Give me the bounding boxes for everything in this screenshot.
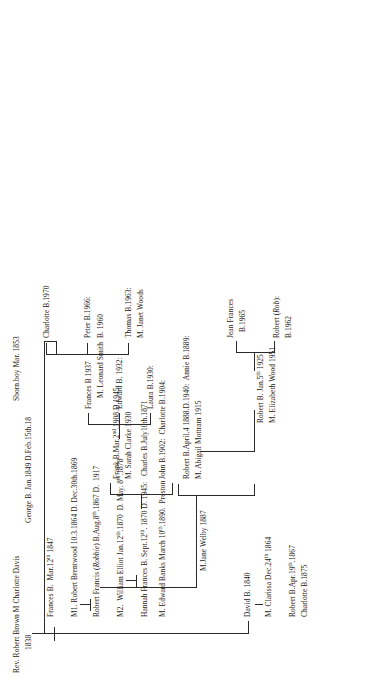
node-marriage1-brentwood: M1. Robert Brentwood 10.3.1864 D. Dec.30… <box>70 458 79 617</box>
node-marriage2-elliot: M2. William Elliot Jan.12th.1870 D. May.… <box>116 459 125 617</box>
robbie-pre: Robert Francis ( <box>92 567 101 617</box>
tick-thomas-1963 <box>128 343 129 355</box>
hannah-marriage-sup: th <box>157 526 163 530</box>
robert-1925-descender <box>200 451 254 452</box>
node-leonard-smith: M. Leonard Smith B. 1960 <box>96 314 105 398</box>
robbie-tail: .1867 D. 1917 <box>92 466 101 512</box>
m1-descender <box>80 604 90 605</box>
tick-laura-1930 <box>150 413 151 425</box>
node-abigail-mottram: M. Abigail Mottram 1915 <box>194 400 203 479</box>
david-marriage-tick <box>255 604 263 605</box>
rob-nickname: Rob <box>272 301 281 313</box>
hannah-sup: th <box>139 530 145 534</box>
tick-john-bottom <box>172 483 173 495</box>
tick-jean <box>236 341 237 353</box>
john-parent-connector <box>141 495 142 509</box>
tick-peter-1966 <box>87 343 88 355</box>
rob-jean-bus <box>236 352 274 353</box>
node-robert-b-1867: Robert B.Apr.19th.1867 <box>288 545 297 617</box>
node-sarah-clarke: M. Sarah Clarke 1930 <box>124 412 133 479</box>
tick-robert-annie-bottom <box>254 484 255 496</box>
hannah-text: Hannah Frances B. Sept.12 <box>140 534 149 617</box>
david-spouse-sup: th <box>263 554 269 558</box>
tick-edward-1932 <box>119 413 120 425</box>
root-descender <box>32 633 44 634</box>
frank-pre: Frank B.Mar.2 <box>112 434 121 479</box>
node-jean-birth: B.1965 <box>238 310 247 332</box>
hannah-marriage-text: M. Edward Banks March 10 <box>158 531 167 617</box>
node-rob-birth: B.1962 <box>284 316 293 338</box>
root-marriage-year: 1838 <box>24 635 33 650</box>
tick-frances <box>54 627 55 641</box>
hannah-marriage-tail: .1890. Preston <box>158 481 167 527</box>
generation1-sibling-bus <box>44 342 45 634</box>
family-tree-chart: Rev. Robert Brown M Charlotte Davis 1838… <box>0 0 376 691</box>
tick-david <box>248 621 249 634</box>
robbie-marriage-descender <box>100 587 196 588</box>
tick-rob <box>274 341 275 353</box>
node-frances-1937: Frances B 1937 <box>84 361 93 409</box>
node-peter-1966: Peter B.1966: <box>83 296 92 338</box>
jane-children-bus <box>178 495 254 496</box>
rob-pre: Robert ( <box>272 313 281 338</box>
drop-to-david <box>44 633 248 634</box>
tick-robert-annie-top <box>178 484 179 496</box>
node-jane-welby: M.Jane Welby 1887 <box>199 510 208 571</box>
drop-to-frances <box>44 633 54 634</box>
robbie-post: ) B.Aug.8 <box>92 516 101 546</box>
tick-stillborn <box>56 341 57 355</box>
m2-tail: .1870 D. May. 8 <box>116 480 125 531</box>
drop-to-stillborn <box>44 341 56 342</box>
frank-children-parent-connector <box>119 425 120 439</box>
rob-jean-parent-connector <box>254 353 255 371</box>
node-charlotte-1970: Charlotte B,1970 <box>42 285 51 338</box>
rob-post: ): <box>272 296 281 301</box>
node-janet-woods: M. Janet Woods <box>136 289 145 338</box>
node-stillborn: Sborn.boy Mar. 1853 <box>12 336 21 401</box>
frances-text: Frances B. Mar.12 <box>46 559 55 617</box>
robert-1925-pre: Robert B. Jan.5 <box>256 376 265 423</box>
family-tree-page: Rev. Robert Brown M Charlotte Davis 1838… <box>0 0 376 691</box>
robert-1925-sup: th <box>255 371 261 375</box>
node-edward-1932: Edward B. 1932: <box>115 357 124 409</box>
m1-child-bus <box>90 599 91 611</box>
node-charlotte-b-1875: Charlotte B.1875 <box>300 564 309 617</box>
node-robert-1925: Robert B. Jan.5th 1925 <box>256 354 265 423</box>
frances-sup: th <box>45 555 51 559</box>
node-david: David B. 1840 <box>243 572 252 617</box>
frank-sup: nd <box>111 429 117 434</box>
node-elizabeth-wood: M. Elizabeth Wood 1951 <box>268 347 277 423</box>
hannah-tail: . 1870 D. 1945: Charles B.July10th.1871 <box>140 400 149 529</box>
m2-sup: th <box>115 531 121 535</box>
m2-pre: M2. William Elliot Jan.12 <box>116 536 125 617</box>
david-spouse-text: M. Clarissa Dec.24 <box>264 558 273 617</box>
robert-1925-parent-connector <box>254 410 255 452</box>
node-frances: Frances B. Mar.12th 1847 <box>46 537 55 617</box>
node-thomas-1963: Thomas B.1963: <box>124 287 133 338</box>
robbie-nickname: Robbie <box>92 546 101 568</box>
tick-john-top <box>110 483 111 495</box>
root-couple-label: Rev. Robert Brown M Charlotte Davis <box>12 555 21 673</box>
tick-charlotte-1970 <box>46 343 47 355</box>
tick-frances-1937 <box>88 413 89 425</box>
node-robert-rob-1962: Robert (Rob): <box>272 296 281 338</box>
robert-1925-tail: 1925 <box>256 354 265 371</box>
robert-b-tail: .1867 <box>288 545 297 562</box>
node-hannah-marriage-banks: M. Edward Banks March 10th.1890. Preston <box>158 481 167 617</box>
node-david-spouse: M. Clarissa Dec.24th 1864 <box>264 537 273 617</box>
node-jean-frances: Jean Frances <box>226 299 235 338</box>
m2-descender <box>126 580 136 581</box>
robert-b-text: Robert B.Apr.19 <box>288 566 297 617</box>
node-laura-1930: Laura B.1930: <box>146 365 155 409</box>
jane-children-connector <box>196 496 197 518</box>
node-robert-annie: Robert B.April.4 1888.D.1940: Annie B.18… <box>182 335 191 479</box>
frances-tail: 1847 <box>46 537 55 554</box>
m2-child-bus <box>136 575 137 587</box>
node-george: George B. Jan.1849 D.Feb.15th.18 <box>24 417 33 523</box>
robbie-to-jane-connector <box>196 518 197 588</box>
node-john-charlotte: John B.1902: Charlotte B.1904: <box>158 380 167 479</box>
robert-b-sup: th <box>287 562 293 566</box>
robbie-sup: th <box>91 511 97 515</box>
node-robert-francis-robbie: Robert Francis (Robbie) B.Aug.8th.1867 D… <box>92 466 101 617</box>
david-spouse-tail: 1864 <box>264 537 273 554</box>
